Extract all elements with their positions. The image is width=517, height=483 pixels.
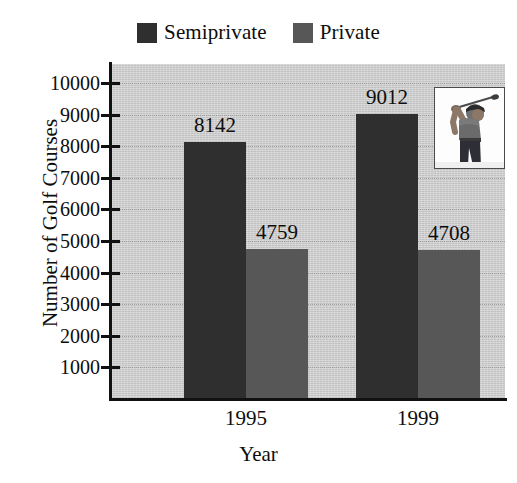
y-tick-2000 — [101, 335, 120, 338]
y-tick-8000 — [101, 145, 120, 148]
bar-1995-private — [246, 249, 308, 399]
legend-entry-semiprivate: Semiprivate — [137, 22, 267, 43]
x-axis-title: Year — [0, 443, 517, 465]
legend-entry-private: Private — [293, 22, 380, 43]
legend-label-semiprivate: Semiprivate — [164, 22, 267, 43]
legend-label-private: Private — [320, 22, 380, 43]
x-tick-label-1999: 1999 — [326, 406, 510, 430]
bar-value-1995-private: 4759 — [232, 222, 322, 243]
golfer-photo — [434, 87, 505, 169]
gridline-6000 — [112, 209, 505, 210]
bar-1999-semiprivate — [356, 114, 418, 399]
bar-value-1999-private: 4708 — [404, 223, 494, 244]
golfer-photo-illustration — [435, 88, 504, 168]
gridline-10000 — [112, 83, 505, 84]
legend-swatch-semiprivate — [137, 23, 157, 43]
golf-courses-bar-chart: Semiprivate Private 10002000300040005000… — [0, 0, 517, 483]
y-axis-title: Number of Golf Courses — [39, 78, 61, 368]
y-tick-7000 — [101, 177, 120, 180]
y-tick-10000 — [101, 82, 120, 85]
gridline-7000 — [112, 178, 505, 179]
y-tick-3000 — [101, 303, 120, 306]
bar-1999-private — [418, 250, 480, 399]
legend-swatch-private — [293, 23, 313, 43]
y-tick-1000 — [101, 366, 120, 369]
y-tick-6000 — [101, 208, 120, 211]
x-tick-label-1995: 1995 — [154, 406, 338, 430]
bar-value-1999-semiprivate: 9012 — [342, 87, 432, 108]
bar-1995-semiprivate — [184, 142, 246, 399]
y-tick-5000 — [101, 240, 120, 243]
y-tick-4000 — [101, 272, 120, 275]
x-axis-line — [109, 398, 507, 401]
bar-value-1995-semiprivate: 8142 — [170, 115, 260, 136]
y-tick-9000 — [101, 114, 120, 117]
